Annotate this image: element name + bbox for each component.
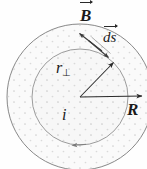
label-radius-R: R	[127, 101, 138, 118]
label-b-field: B	[80, 7, 91, 24]
vector-arrow-overbar-icon	[80, 2, 92, 4]
label-r-perpendicular: r⊥	[56, 60, 71, 78]
figure-canvas	[0, 0, 147, 169]
ds-vector-glyph: ds	[103, 30, 116, 45]
ds-letters: ds	[103, 29, 116, 45]
vector-arrow-overbar-icon	[104, 26, 118, 27]
b-field-letter: B	[80, 6, 91, 25]
b-field-vector-glyph: B	[80, 7, 91, 24]
perpendicular-subscript-icon: ⊥	[62, 67, 71, 78]
ampere-law-figure: B ds r⊥ i R	[0, 0, 147, 169]
label-current: i	[62, 107, 66, 123]
label-ds-element: ds	[103, 30, 116, 45]
